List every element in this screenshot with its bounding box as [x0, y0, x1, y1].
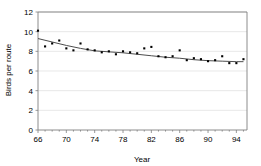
- data-point: [214, 59, 216, 61]
- data-point: [58, 39, 60, 41]
- y-tick-label-0: 0: [29, 126, 34, 135]
- data-point: [221, 55, 223, 57]
- data-point: [44, 45, 46, 47]
- data-point: [186, 59, 188, 61]
- data-point: [193, 57, 195, 59]
- birds-per-route-scatter-chart: 024681012 6670747882869094 Birds per rou…: [0, 0, 261, 166]
- data-point: [108, 50, 110, 52]
- data-point: [150, 46, 152, 48]
- y-tick-label-6: 6: [29, 67, 34, 76]
- x-tick-label-86: 86: [175, 135, 184, 144]
- data-point: [87, 48, 89, 50]
- x-tick-label-90: 90: [204, 135, 213, 144]
- y-axis-ticks: 024681012: [24, 8, 38, 135]
- data-point: [157, 55, 159, 57]
- data-point: [72, 49, 74, 51]
- x-axis-ticks: 6670747882869094: [34, 130, 244, 144]
- y-axis-title: Birds per route: [4, 43, 13, 96]
- y-tick-label-10: 10: [24, 28, 33, 37]
- data-point: [136, 52, 138, 54]
- x-tick-label-82: 82: [147, 135, 156, 144]
- data-point: [65, 47, 67, 49]
- chart-container: 024681012 6670747882869094 Birds per rou…: [0, 0, 261, 166]
- data-point: [79, 42, 81, 44]
- trend-line-group: [38, 39, 243, 62]
- data-point: [235, 62, 237, 64]
- data-point: [51, 42, 53, 44]
- data-point: [101, 51, 103, 53]
- trend-line: [38, 39, 243, 62]
- data-point: [115, 53, 117, 55]
- y-tick-label-4: 4: [29, 87, 34, 96]
- data-point: [207, 60, 209, 62]
- data-point: [94, 49, 96, 51]
- data-point: [164, 56, 166, 58]
- data-point: [122, 50, 124, 52]
- x-tick-label-74: 74: [90, 135, 99, 144]
- data-point: [228, 62, 230, 64]
- data-points-group: [37, 30, 245, 65]
- x-tick-label-66: 66: [34, 135, 43, 144]
- x-tick-label-70: 70: [62, 135, 71, 144]
- x-tick-label-94: 94: [232, 135, 241, 144]
- data-point: [172, 55, 174, 57]
- data-point: [179, 49, 181, 51]
- y-tick-label-12: 12: [24, 8, 33, 17]
- x-axis-title: Year: [134, 155, 151, 164]
- y-tick-label-8: 8: [29, 47, 34, 56]
- x-tick-label-78: 78: [119, 135, 128, 144]
- data-point: [37, 30, 39, 32]
- data-point: [242, 58, 244, 60]
- data-point: [129, 51, 131, 53]
- data-point: [200, 58, 202, 60]
- data-point: [143, 47, 145, 49]
- y-tick-label-2: 2: [29, 106, 34, 115]
